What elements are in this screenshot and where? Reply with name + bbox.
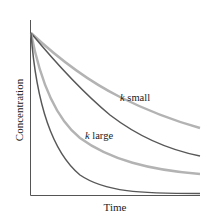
concentration-time-chart: k small k large Concentration Time — [0, 0, 209, 219]
curve-k-large-dark — [31, 33, 200, 194]
y-axis-label: Concentration — [13, 78, 25, 141]
label-k-large: k large — [85, 130, 113, 141]
label-k-small: k small — [120, 92, 150, 103]
curve-k-small-light — [31, 33, 200, 128]
x-axis-label: Time — [104, 201, 127, 213]
